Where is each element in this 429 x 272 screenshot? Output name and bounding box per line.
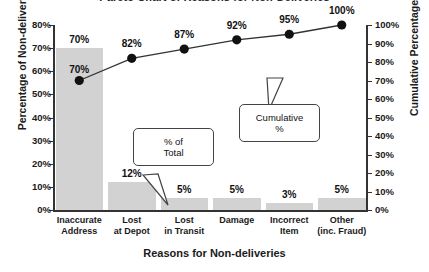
pareto-chart: Pareto Chart of Reasons for Non-Deliveri…	[0, 0, 429, 272]
callout-cumulative-pct: Cumulative %	[239, 104, 320, 142]
callout-line-2: %	[275, 123, 283, 134]
callout-line-1: % of	[164, 136, 183, 147]
callout-pointers	[0, 0, 429, 272]
callout-line-1: Cumulative	[256, 112, 304, 123]
callout-pct-of-total: % of Total	[133, 128, 214, 166]
callout-line-2: Total	[163, 147, 183, 158]
